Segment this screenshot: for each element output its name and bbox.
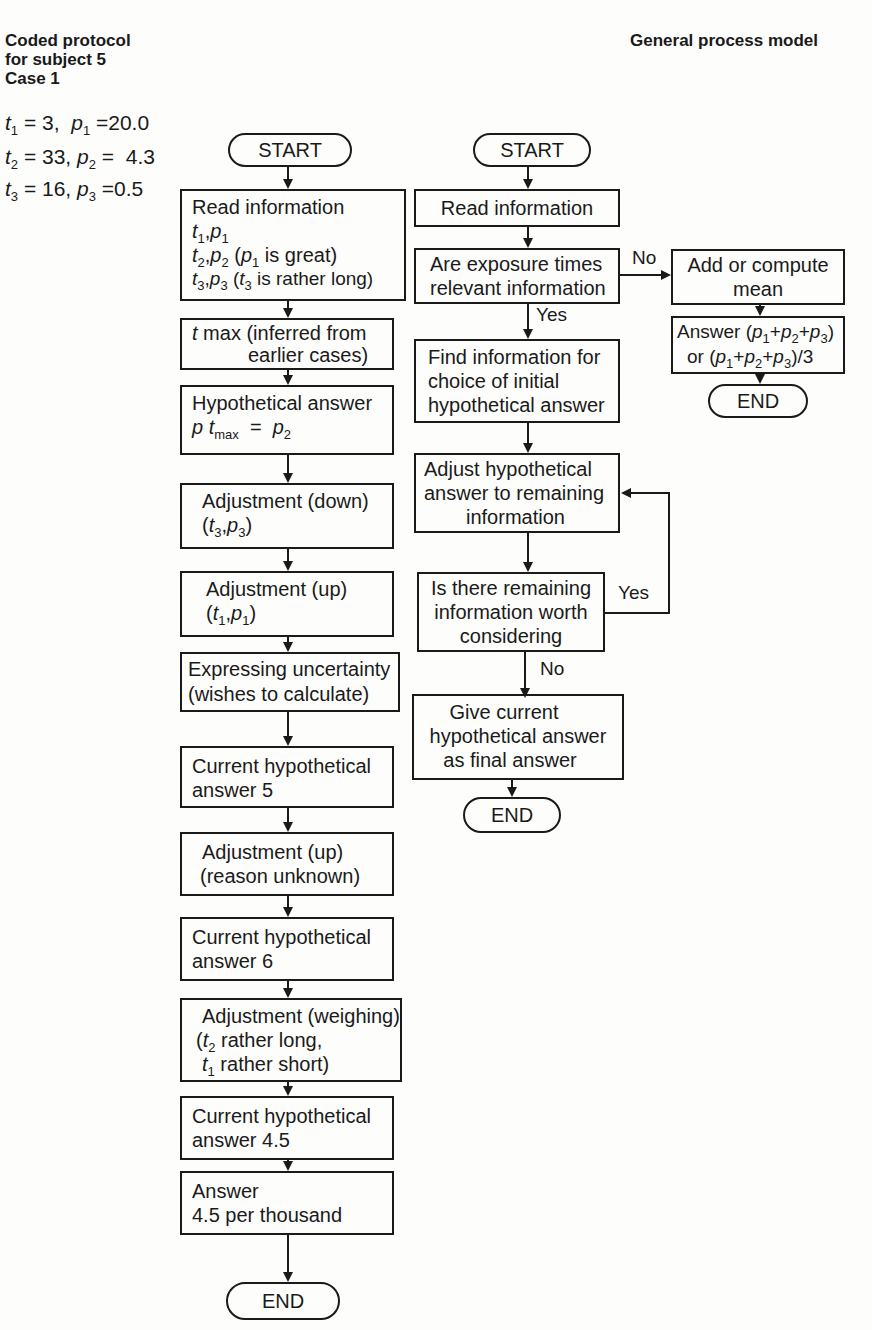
step-text: Find information for — [428, 345, 608, 369]
step-text: p tmax = p2 — [192, 415, 382, 439]
step-text: t max (inferred from — [192, 322, 382, 344]
step-text: choice of initial — [428, 369, 608, 393]
protocol-step-adjust-down: Adjustment (down) (t3,p3) — [180, 483, 394, 549]
model-no-branch-end: END — [708, 384, 808, 418]
step-text: Adjustment (weighing) — [202, 1004, 390, 1028]
step-text: Current hypothetical — [192, 1104, 382, 1128]
step-text: Adjustment (up) — [202, 840, 382, 864]
protocol-step-tmax: t max (inferred from earlier cases) — [180, 318, 394, 370]
given-row-3: t3 = 16, p3 =0.5 — [5, 178, 143, 200]
step-text: Give current — [390, 700, 618, 724]
step-text: 4.5 per thousand — [192, 1203, 382, 1227]
step-text: Expressing uncertainty — [188, 657, 388, 682]
model-start: START — [473, 133, 591, 167]
step-text: Hypothetical answer — [192, 391, 382, 415]
yes-label: Yes — [618, 582, 649, 604]
protocol-start: START — [228, 133, 352, 167]
model-answer-sum-mean: Answer (p1+p2+p3) or (p1+p2+p3)/3 — [671, 316, 845, 374]
loop-connector — [630, 492, 670, 494]
step-text: (t2 rather long, — [196, 1028, 390, 1052]
protocol-step-adjust-up-1: Adjustment (up) (t1,p1) — [180, 571, 394, 637]
step-text: Answer (p1+p2+p3) — [677, 319, 839, 344]
given-row-1: t1 = 3, p1 =20.0 — [5, 112, 149, 134]
step-text: information — [424, 505, 608, 529]
step-text: (wishes to calculate) — [188, 682, 388, 707]
step-text: considering — [423, 624, 599, 648]
end-label: END — [491, 804, 533, 827]
step-text: as final answer — [402, 748, 618, 772]
model-find-information: Find information for choice of initial h… — [414, 339, 620, 423]
step-text: (t3,p3) — [202, 513, 382, 537]
step-text: Adjustment (up) — [206, 577, 382, 601]
model-title: General process model — [630, 31, 818, 50]
step-text: mean — [677, 277, 839, 301]
step-text: Read information — [192, 195, 394, 219]
model-add-mean: Add or compute mean — [671, 249, 845, 305]
model-end: END — [463, 797, 561, 833]
model-decision-remaining: Is there remaining information worth con… — [417, 572, 605, 652]
step-text: or (p1+p2+p3)/3 — [677, 344, 839, 369]
yes-label: Yes — [536, 304, 567, 326]
given-row-2: t2 = 33, p2 = 4.3 — [5, 146, 155, 168]
step-text: (reason unknown) — [200, 864, 382, 888]
step-text: relevant information — [430, 276, 608, 300]
title-line-1: Coded protocol — [5, 31, 131, 50]
model-give-answer: Give current hypothetical answer as fina… — [412, 694, 624, 780]
step-text: answer 4.5 — [192, 1128, 382, 1152]
protocol-step-hypothetical: Hypothetical answer p tmax = p2 — [180, 385, 394, 455]
step-text: Are exposure times — [430, 252, 608, 276]
step-text: Adjustment (down) — [202, 489, 382, 513]
start-label: START — [500, 139, 564, 162]
step-text: Read information — [441, 197, 593, 219]
no-label: No — [540, 658, 564, 680]
end-label: END — [262, 1290, 304, 1313]
step-text: Adjust hypothetical — [424, 457, 608, 481]
step-text: (t1,p1) — [206, 601, 382, 625]
protocol-step-current-4-5: Current hypothetical answer 4.5 — [180, 1096, 394, 1160]
protocol-step-read: Read information t1,p1 t2,p2 (p1 is grea… — [180, 189, 406, 301]
step-text: t2,p2 (p1 is great) — [192, 243, 394, 267]
model-decision-exposure: Are exposure times relevant information — [414, 248, 620, 304]
end-label: END — [737, 390, 779, 413]
no-label: No — [632, 247, 656, 269]
step-text: t3,p3 (t3 is rather long) — [192, 267, 394, 291]
step-text: Is there remaining — [423, 576, 599, 600]
protocol-step-uncertainty: Expressing uncertainty (wishes to calcul… — [180, 652, 400, 712]
step-text: hypothetical answer — [418, 724, 618, 748]
step-text: Current hypothetical — [192, 925, 382, 949]
title-line-3: Case 1 — [5, 69, 131, 88]
protocol-title: Coded protocol for subject 5 Case 1 — [5, 31, 131, 88]
step-text: hypothetical answer — [428, 393, 608, 417]
step-text: Answer — [192, 1179, 382, 1203]
step-text: t1 rather short) — [202, 1052, 390, 1076]
start-label: START — [258, 139, 322, 162]
protocol-step-weighing: Adjustment (weighing) (t2 rather long, t… — [180, 998, 402, 1082]
title-line-2: for subject 5 — [5, 50, 131, 69]
protocol-step-adjust-up-2: Adjustment (up) (reason unknown) — [180, 832, 394, 896]
step-text: Add or compute — [677, 253, 839, 277]
protocol-step-current-5: Current hypothetical answer 5 — [180, 746, 394, 808]
step-text: earlier cases) — [192, 344, 382, 366]
protocol-step-current-6: Current hypothetical answer 6 — [180, 917, 394, 981]
model-read-information: Read information — [414, 189, 620, 227]
protocol-end: END — [226, 1282, 340, 1320]
model-adjust-hypothetical: Adjust hypothetical answer to remaining … — [414, 453, 620, 533]
step-text: answer 6 — [192, 949, 382, 973]
step-text: t1,p1 — [192, 219, 394, 243]
step-text: answer 5 — [192, 778, 382, 802]
protocol-step-answer: Answer 4.5 per thousand — [180, 1171, 394, 1235]
step-text: answer to remaining — [424, 481, 608, 505]
step-text: Current hypothetical — [192, 754, 382, 778]
step-text: information worth — [423, 600, 599, 624]
